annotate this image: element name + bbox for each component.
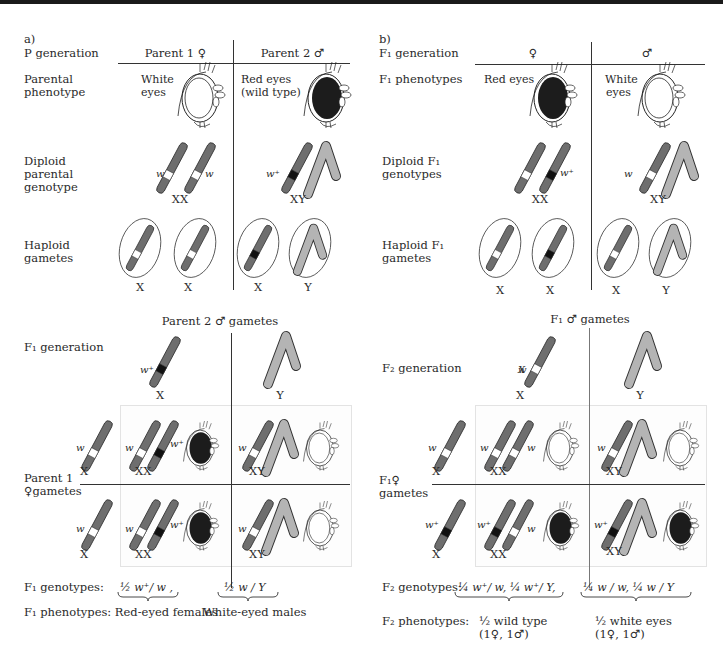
male-phenotype-2: eyes (606, 86, 631, 99)
f1-phenotype-2: White-eyed males (203, 606, 307, 619)
header-divider (118, 63, 350, 64)
parent1-genotype: XX (160, 193, 200, 206)
male-gamete-label: X (510, 389, 530, 402)
cell-genotype: XY (249, 465, 265, 478)
x-chromosome-wplus-icon (617, 525, 618, 526)
allele-label: w (518, 363, 527, 376)
y-chromosome-icon (322, 168, 323, 169)
y-chromosome-icon (643, 358, 644, 359)
x-chromosome-w-icon (450, 446, 451, 447)
gamete-cell (310, 248, 311, 249)
cell-genotype: XX (490, 465, 506, 478)
cell-genotype: XX (490, 548, 506, 561)
female-gamete-label: X (432, 465, 440, 478)
parent2-header: Parent 2 ♂ (235, 47, 350, 60)
gamete-cell (500, 248, 501, 249)
f1-generation-label: F₁ generation (24, 341, 104, 354)
allele-label: w (527, 441, 536, 454)
parent2-phenotype: Red eyes (241, 73, 291, 86)
brace-icon (0, 0, 1, 1)
x-chromosome-w-icon (518, 446, 519, 447)
allele-label: w (76, 441, 85, 454)
f1-phenotypes-label: F₁ phenotypes: Red-eyed females (24, 606, 218, 619)
allele-label: w⁺ (425, 518, 439, 531)
f2-genotypes-label: F₂ genotypes: (382, 581, 462, 594)
panel-a-label: a) (24, 33, 35, 46)
male-gamete-label: Y (270, 389, 290, 402)
parent1-phenotype: White (141, 73, 174, 86)
gamete-label: X (606, 284, 626, 297)
top-border (0, 0, 723, 4)
allele-label: w (597, 441, 606, 454)
white-eye-fly-icon (320, 448, 321, 449)
white-eye-fly-icon (320, 528, 321, 529)
male-gamete-label: X (150, 389, 170, 402)
x-chromosome-w-icon (500, 446, 501, 447)
allele-label: w (480, 441, 489, 454)
male-gamete-label: Y (630, 389, 650, 402)
male-genotype: XY (638, 193, 678, 206)
f1-genotype-1: ½ w⁺/ w , (120, 581, 173, 594)
parent-divider (233, 40, 234, 290)
y-chromosome-icon (280, 525, 281, 526)
white-eye-fly-icon (200, 98, 201, 99)
allele-label: w⁺ (170, 437, 184, 450)
cell-genotype: XY (249, 548, 265, 561)
white-eye-fly-icon (660, 98, 661, 99)
gamete-label: Y (656, 284, 676, 297)
f1-genotypes-label: F₁ genotypes: (24, 581, 104, 594)
allele-label: w (624, 167, 633, 180)
gamete-cell (195, 248, 196, 249)
x-chromosome-w-icon (655, 168, 656, 169)
cell-genotype: XX (135, 548, 151, 561)
allele-label: w⁺ (560, 166, 574, 179)
parent2-genotype: XY (278, 193, 318, 206)
x-chromosome-w-icon (540, 362, 541, 363)
female-genotype: XX (520, 193, 560, 206)
red-eye-fly-icon (560, 528, 561, 529)
gamete-label: X (540, 284, 560, 297)
gamete-cell (140, 248, 141, 249)
female-gamete-label: X (80, 465, 88, 478)
female-gamete-label: X (432, 548, 440, 561)
allele-label: w (205, 167, 214, 180)
f2-genotype-1: ¼ w⁺/ w, ¼ w⁺/ Y, (458, 581, 556, 594)
gamete-cell (618, 248, 619, 249)
diploid-label-3: genotype (24, 181, 78, 194)
gamete-label: X (490, 284, 510, 297)
header-divider (475, 64, 705, 65)
f1-phenotypes-label: F₁ phenotypes (379, 73, 462, 86)
panel-b-label: b) (379, 33, 391, 46)
gamete-label: X (130, 281, 150, 294)
gamete-label: X (178, 281, 198, 294)
gamete-cell (670, 248, 671, 249)
allele-label: w⁺ (594, 518, 608, 531)
red-eye-fly-icon (326, 98, 327, 99)
punnett-divider (231, 333, 232, 588)
y-chromosome-icon (638, 446, 639, 447)
y-chromosome-icon (280, 446, 281, 447)
cell-genotype: XY (606, 545, 622, 558)
haploid-label-2: gametes (382, 252, 431, 265)
x-chromosome-wplus-icon (555, 168, 556, 169)
allele-label: w (238, 441, 247, 454)
f1-generation-label: F₁ generation (379, 47, 459, 60)
parental-phenotype-label-2: phenotype (24, 86, 85, 99)
f2-phenotype-2-ratio: (1♀, 1♂) (595, 628, 645, 641)
female-gamete-label: X (80, 548, 88, 561)
f2-genotype-2: ¼ w / w, ¼ w / Y (583, 581, 674, 594)
female-phenotype: Red eyes (484, 73, 534, 86)
white-eye-fly-icon (680, 448, 681, 449)
y-chromosome-icon (680, 168, 681, 169)
x-chromosome-wplus-icon (450, 525, 451, 526)
x-chromosome-w-icon (518, 525, 519, 526)
gamete-label: X (248, 281, 268, 294)
white-eye-fly-icon (560, 448, 561, 449)
x-chromosome-wplus-icon (500, 525, 501, 526)
punnett-header: F₁ ♂ gametes (530, 313, 650, 326)
allele-label: w⁺ (170, 518, 184, 531)
punnett-row-divider (80, 484, 350, 485)
x-chromosome-w-icon (530, 168, 531, 169)
y-chromosome-icon (282, 358, 283, 359)
f1-genotype-2: ½ w / Y (224, 581, 266, 594)
